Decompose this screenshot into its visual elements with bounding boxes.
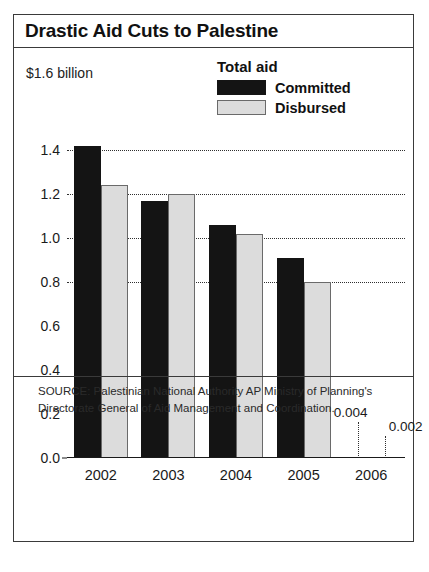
source-divider bbox=[14, 376, 413, 377]
title-bar: Drastic Aid Cuts to Palestine bbox=[14, 15, 413, 48]
bar-2005-committed[interactable] bbox=[277, 258, 304, 458]
legend-title: Total aid bbox=[217, 58, 351, 75]
bar-2004-disbursed[interactable] bbox=[236, 234, 263, 458]
y-tick-label: 0.6 bbox=[41, 318, 60, 334]
chart-legend: Total aid Committed Disbursed bbox=[217, 58, 351, 117]
x-tick-label-2005: 2005 bbox=[287, 467, 319, 483]
x-tick-label-2004: 2004 bbox=[220, 467, 252, 483]
y-tick-label: 0.8 bbox=[41, 274, 60, 290]
source-note: SOURCE: Palestinian National Authority A… bbox=[38, 383, 393, 416]
y-tick-label: 1.0 bbox=[41, 230, 60, 246]
bar-2002-disbursed[interactable] bbox=[101, 185, 128, 458]
bar-2004-committed[interactable] bbox=[209, 225, 236, 458]
x-tick-label-2006: 2006 bbox=[355, 467, 387, 483]
gray-swatch-icon bbox=[217, 100, 266, 115]
bar-2003-disbursed[interactable] bbox=[168, 194, 195, 458]
units-label: $1.6 billion bbox=[26, 65, 93, 81]
data-label-2006-disbursed: 0.002 bbox=[389, 419, 423, 434]
legend-label-disbursed: Disbursed bbox=[275, 100, 346, 116]
page-title: Drastic Aid Cuts to Palestine bbox=[25, 20, 278, 42]
leader-line-2006-committed bbox=[358, 422, 359, 458]
legend-item-committed: Committed bbox=[217, 78, 351, 97]
y-tick-label: 1.2 bbox=[41, 186, 60, 202]
y-tick-label: 1.4 bbox=[41, 142, 60, 158]
bar-2003-committed[interactable] bbox=[141, 201, 168, 458]
leader-line-2006-disbursed bbox=[385, 436, 386, 458]
x-axis-line bbox=[67, 457, 405, 458]
x-tick-label-2003: 2003 bbox=[152, 467, 184, 483]
black-swatch-icon bbox=[217, 80, 266, 95]
x-tick-label-2002: 2002 bbox=[85, 467, 117, 483]
chart-card: Drastic Aid Cuts to Palestine $1.6 billi… bbox=[13, 14, 414, 542]
y-tick-label: 0.0 bbox=[41, 450, 60, 466]
legend-item-disbursed: Disbursed bbox=[217, 98, 351, 117]
legend-label-committed: Committed bbox=[275, 80, 351, 96]
bar-2005-disbursed[interactable] bbox=[304, 282, 331, 458]
